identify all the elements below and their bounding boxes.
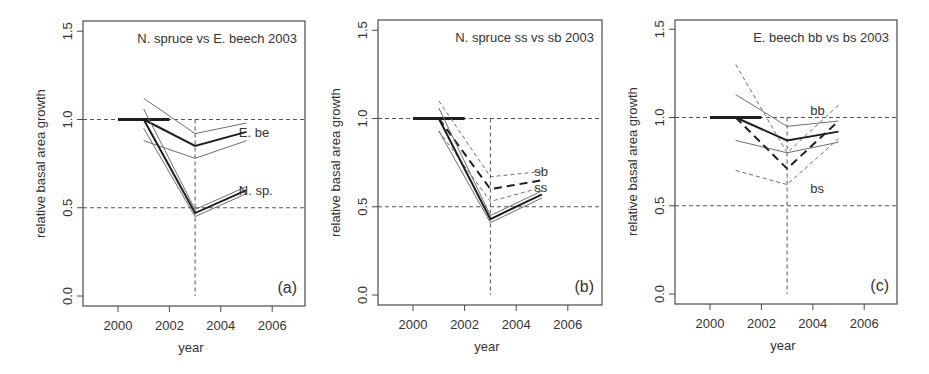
- x-tick-label: 2000: [104, 318, 133, 333]
- y-tick-label: 0.5: [60, 199, 75, 217]
- series-annotation: N. sp.: [239, 183, 273, 198]
- x-tick-label: 2004: [798, 316, 827, 331]
- y-tick-label: 1.0: [60, 110, 75, 128]
- y-tick-label: 1.5: [652, 20, 667, 38]
- data-series-line: [144, 109, 247, 210]
- series-annotation: E. be: [239, 125, 269, 140]
- y-tick-label: 0.0: [60, 287, 75, 305]
- series-annotation: bs: [810, 181, 824, 196]
- x-tick-label: 2004: [502, 317, 531, 332]
- chart-panel-b: 0.00.51.01.52000200220042006yearrelative…: [328, 20, 602, 354]
- series-annotation: bb: [810, 103, 824, 118]
- panel-title: N. spruce ss vs sb 2003: [455, 30, 594, 45]
- series-annotation: ss: [534, 180, 548, 195]
- x-tick-label: 2006: [258, 318, 287, 333]
- y-axis-title: relative basal area growth: [625, 87, 640, 236]
- x-tick-label: 2002: [450, 317, 479, 332]
- plot-frame: [675, 20, 897, 304]
- chart-panel-a: 0.00.51.01.52000200220042006yearrelative…: [33, 21, 305, 355]
- y-tick-label: 1.5: [355, 21, 370, 39]
- x-axis-title: year: [474, 339, 500, 354]
- y-tick-label: 0.5: [355, 198, 370, 216]
- y-tick-label: 0.0: [652, 285, 667, 303]
- y-axis-title: relative basal area growth: [328, 88, 343, 237]
- x-tick-label: 2000: [696, 316, 725, 331]
- x-tick-label: 2006: [850, 316, 879, 331]
- x-axis-title: year: [178, 340, 204, 355]
- figure-three-panel-line-chart: 0.00.51.01.52000200220042006yearrelative…: [0, 0, 929, 374]
- x-axis-title: year: [770, 338, 796, 353]
- y-tick-label: 1.0: [355, 109, 370, 127]
- panel-label: (c): [870, 277, 889, 294]
- x-tick-label: 2002: [747, 316, 776, 331]
- x-tick-label: 2000: [399, 317, 428, 332]
- y-tick-label: 1.5: [60, 22, 75, 40]
- series-annotation: sb: [534, 164, 548, 179]
- chart-panel-c: 0.00.51.01.52000200220042006yearrelative…: [625, 20, 897, 353]
- y-axis-title: relative basal area growth: [33, 89, 48, 238]
- x-tick-label: 2006: [553, 317, 582, 332]
- x-tick-label: 2004: [206, 318, 235, 333]
- x-tick-label: 2002: [155, 318, 184, 333]
- chart-canvas: 0.00.51.01.52000200220042006yearrelative…: [0, 0, 929, 374]
- data-series-line: [439, 101, 542, 177]
- panel-label: (b): [574, 278, 594, 295]
- y-tick-label: 1.0: [652, 108, 667, 126]
- plot-frame: [83, 21, 305, 306]
- panel-title: E. beech bb vs bs 2003: [753, 30, 889, 45]
- panel-title: N. spruce vs E. beech 2003: [137, 31, 297, 46]
- y-tick-label: 0.5: [652, 197, 667, 215]
- panel-label: (a): [277, 279, 297, 296]
- y-tick-label: 0.0: [355, 286, 370, 304]
